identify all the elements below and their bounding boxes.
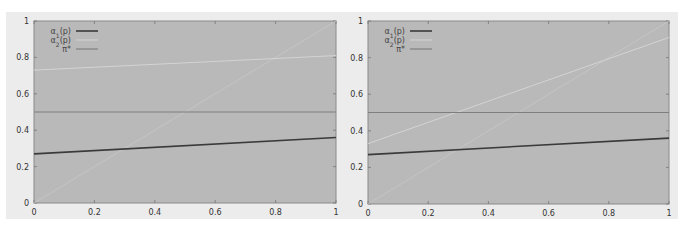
right-chart-panel: 00.20.40.60.8100.20.40.60.81α1(p)α2(p)π* xyxy=(341,12,678,219)
x-tick-label: 0.8 xyxy=(269,208,282,217)
x-tick-label: 0.6 xyxy=(542,209,555,218)
right-chart: 00.20.40.60.8100.20.40.60.81α1(p)α2(p)π* xyxy=(341,12,678,219)
y-tick-label: 0.2 xyxy=(16,163,29,172)
x-tick-label: 0 xyxy=(365,209,370,218)
y-tick-label: 0 xyxy=(24,199,29,208)
x-tick-label: 0 xyxy=(31,208,36,217)
y-tick-label: 0.8 xyxy=(16,53,29,62)
x-tick-label: 0.4 xyxy=(148,208,161,217)
x-tick-label: 0.8 xyxy=(602,209,615,218)
x-tick-label: 1 xyxy=(333,208,338,217)
x-tick-label: 0.6 xyxy=(209,208,222,217)
y-tick-label: 0.4 xyxy=(350,127,363,136)
y-tick-label: 0.8 xyxy=(350,54,363,63)
y-tick-label: 0.6 xyxy=(350,90,363,99)
y-tick-label: 1 xyxy=(358,17,363,26)
x-tick-label: 1 xyxy=(666,209,671,218)
x-tick-label: 0.2 xyxy=(422,209,435,218)
legend-label: π* xyxy=(62,45,71,54)
y-tick-label: 1 xyxy=(24,17,29,26)
left-chart-panel: 00.20.40.60.8100.20.40.60.81α1(p)α2(p)π* xyxy=(6,12,343,219)
left-chart: 00.20.40.60.8100.20.40.60.81α1(p)α2(p)π* xyxy=(6,12,343,219)
legend-label: π* xyxy=(396,45,405,54)
x-tick-label: 0.2 xyxy=(88,208,101,217)
y-tick-label: 0 xyxy=(358,200,363,209)
y-tick-label: 0.6 xyxy=(16,90,29,99)
x-tick-label: 0.4 xyxy=(482,209,495,218)
y-tick-label: 0.2 xyxy=(350,163,363,172)
y-tick-label: 0.4 xyxy=(16,126,29,135)
